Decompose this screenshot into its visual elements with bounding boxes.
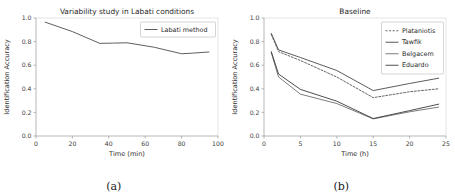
subfigure-a-caption: (a) xyxy=(0,180,228,193)
x-tick-label: 5 xyxy=(298,140,302,147)
legend-label-plataniotis: Plataniotis xyxy=(402,27,436,35)
y-tick-label: 0.4 xyxy=(22,85,32,92)
legend-label-eduardo: Eduardo xyxy=(402,61,429,69)
x-tick-label: 60 xyxy=(141,140,149,147)
chart-b-svg: 05101520250.00.20.40.60.81.0Time (h)Iden… xyxy=(228,0,455,165)
x-tick-label: 40 xyxy=(105,140,113,147)
legend-label-labati method: Labati method xyxy=(161,26,207,34)
x-tick-label: 25 xyxy=(442,140,450,147)
subfigure-b: 05101520250.00.20.40.60.81.0Time (h)Iden… xyxy=(228,0,455,195)
y-tick-label: 0.8 xyxy=(249,38,259,45)
y-axis-label: Identification Accuracy xyxy=(3,39,11,115)
x-tick-label: 100 xyxy=(212,140,224,147)
x-tick-label: 80 xyxy=(178,140,186,147)
legend-label-belgacem: Belgacem xyxy=(402,50,434,58)
chart-b-plot: 05101520250.00.20.40.60.81.0Time (h)Iden… xyxy=(228,0,455,165)
subfigure-a: 0204060801000.00.20.40.60.81.0Time (min)… xyxy=(0,0,228,195)
chart-a-svg: 0204060801000.00.20.40.60.81.0Time (min)… xyxy=(0,0,228,165)
y-tick-label: 1.0 xyxy=(22,14,32,21)
chart-title: Variability study in Labati conditions xyxy=(60,7,194,16)
y-tick-label: 0.6 xyxy=(22,61,32,68)
y-tick-label: 0.2 xyxy=(22,109,32,116)
y-tick-label: 0.6 xyxy=(249,61,259,68)
y-tick-label: 0.0 xyxy=(22,132,32,139)
chart-a-plot: 0204060801000.00.20.40.60.81.0Time (min)… xyxy=(0,0,228,165)
y-tick-label: 0.4 xyxy=(249,85,259,92)
legend-label-tawfik: Tawfik xyxy=(401,38,422,46)
x-tick-label: 15 xyxy=(369,140,377,147)
x-tick-label: 10 xyxy=(332,140,340,147)
y-tick-label: 0.0 xyxy=(249,132,259,139)
x-tick-label: 20 xyxy=(68,140,76,147)
x-tick-label: 20 xyxy=(405,140,413,147)
y-tick-label: 0.2 xyxy=(249,109,259,116)
chart-title: Baseline xyxy=(339,7,371,16)
x-tick-label: 0 xyxy=(34,140,38,147)
y-tick-label: 0.8 xyxy=(22,38,32,45)
subfigure-b-caption: (b) xyxy=(228,180,455,193)
x-axis-label: Time (min) xyxy=(108,150,145,158)
y-axis-label: Identification Accuracy xyxy=(231,39,239,115)
x-tick-label: 0 xyxy=(262,140,266,147)
y-tick-label: 1.0 xyxy=(249,14,259,21)
figure-row: 0204060801000.00.20.40.60.81.0Time (min)… xyxy=(0,0,455,195)
x-axis-label: Time (h) xyxy=(340,150,369,158)
